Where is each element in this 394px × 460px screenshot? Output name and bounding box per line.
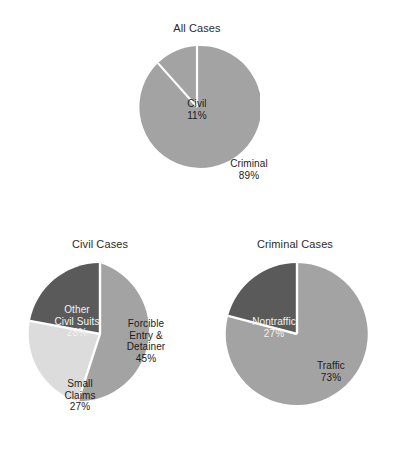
slice-label-forcible-line3: Detainer [112, 341, 180, 353]
chart-panel-all-cases: All Cases Civil 11% Criminal 89% [97, 22, 297, 212]
slice-label-traffic-pct: 73% [301, 372, 361, 384]
chart-title-civil-cases: Civil Cases [10, 238, 190, 250]
slice-label-small-claims-line2: Claims [50, 390, 110, 402]
slice-label-nontraffic: Nontraffic 27% [239, 316, 309, 339]
slice-label-small-claims-line1: Small [50, 378, 110, 390]
slice-label-forcible-line1: Forcible [112, 318, 180, 330]
slice-label-other-civil-suits: Other Civil Suits 28% [40, 304, 114, 339]
slice-label-forcible-line2: Entry & [112, 330, 180, 342]
slice-label-criminal-pct: 89% [210, 170, 288, 182]
slice-label-civil-name: Civil [170, 98, 224, 110]
slice-label-civil-pct: 11% [170, 110, 224, 122]
chart-title-criminal-cases: Criminal Cases [205, 238, 385, 250]
slice-label-nontraffic-name: Nontraffic [239, 316, 309, 328]
pie-civil-cases: Other Civil Suits 28% Forcible Entry & D… [26, 260, 174, 408]
slice-label-forcible-pct: 45% [112, 353, 180, 365]
slice-label-other-civil-suits-line1: Other [40, 304, 114, 316]
slice-label-civil: Civil 11% [170, 98, 224, 121]
slice-label-other-civil-suits-pct: 28% [40, 327, 114, 339]
chart-panel-criminal-cases: Criminal Cases Nontraffic 27% Traffic 73… [205, 238, 385, 438]
slice-label-forcible-entry-detainer: Forcible Entry & Detainer 45% [112, 318, 180, 364]
slice-label-traffic: Traffic 73% [301, 360, 361, 383]
slice-label-nontraffic-pct: 27% [239, 328, 309, 340]
pie-criminal-cases: Nontraffic 27% Traffic 73% [223, 260, 371, 408]
pie-chart-figure: All Cases Civil 11% Criminal 89% Civ [0, 0, 394, 460]
slice-label-traffic-name: Traffic [301, 360, 361, 372]
chart-panel-civil-cases: Civil Cases Other Civil Suits 28% Forcib… [10, 238, 190, 438]
pie-all-cases: Civil 11% Criminal 89% [134, 44, 260, 170]
slice-label-criminal: Criminal 89% [210, 158, 288, 181]
slice-label-criminal-name: Criminal [210, 158, 288, 170]
slice-label-small-claims: Small Claims 27% [50, 378, 110, 413]
slice-label-small-claims-pct: 27% [50, 401, 110, 413]
slice-label-other-civil-suits-line2: Civil Suits [40, 316, 114, 328]
chart-title-all-cases: All Cases [97, 22, 297, 34]
